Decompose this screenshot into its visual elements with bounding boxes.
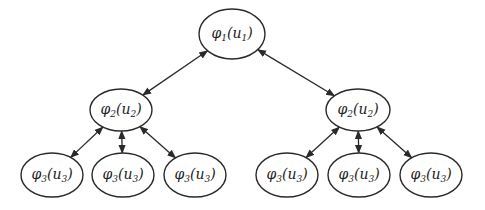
node-leaf-6: φ3(u3) bbox=[400, 153, 462, 197]
node-label: φ2(u2) bbox=[100, 101, 141, 119]
node-leaf-4: φ3(u3) bbox=[256, 153, 318, 197]
node-leaf-1: φ3(u3) bbox=[21, 153, 83, 197]
edge-mid-left-to-leaf-2 bbox=[122, 131, 123, 153]
node-label: φ2(u2) bbox=[337, 101, 378, 119]
nodes-layer: φ1(u1)φ2(u2)φ2(u2)φ3(u3)φ3(u3)φ3(u3)φ3(u… bbox=[21, 9, 462, 197]
edge-mid-right-to-leaf-4 bbox=[306, 127, 339, 158]
edge-mid-left-to-leaf-1 bbox=[71, 127, 103, 157]
node-label: φ3(u3) bbox=[174, 166, 215, 184]
node-label: φ1(u1) bbox=[211, 25, 252, 43]
node-label: φ3(u3) bbox=[31, 166, 72, 184]
node-leaf-2: φ3(u3) bbox=[92, 153, 154, 197]
node-root: φ1(u1) bbox=[199, 9, 265, 59]
edge-root-to-mid-left bbox=[143, 51, 208, 95]
node-mid-left: φ2(u2) bbox=[90, 89, 152, 131]
edge-mid-right-to-leaf-6 bbox=[377, 127, 412, 158]
tree-diagram: φ1(u1)φ2(u2)φ2(u2)φ3(u3)φ3(u3)φ3(u3)φ3(u… bbox=[0, 0, 485, 210]
node-label: φ3(u3) bbox=[410, 166, 451, 184]
node-label: φ3(u3) bbox=[338, 166, 379, 184]
node-label: φ3(u3) bbox=[102, 166, 143, 184]
node-leaf-5: φ3(u3) bbox=[328, 153, 390, 197]
edge-root-to-mid-right bbox=[258, 50, 335, 96]
node-leaf-3: φ3(u3) bbox=[164, 153, 226, 197]
node-label: φ3(u3) bbox=[266, 166, 307, 184]
node-mid-right: φ2(u2) bbox=[326, 89, 390, 131]
edge-mid-left-to-leaf-3 bbox=[140, 127, 176, 158]
